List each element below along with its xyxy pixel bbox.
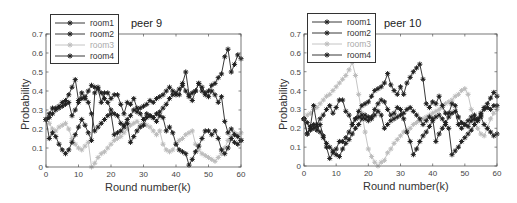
x-tick-label: 10 <box>332 169 341 178</box>
y-tick-label: 0.2 <box>32 125 44 134</box>
x-tick-label: 60 <box>237 170 246 179</box>
y-tick-label: 0.6 <box>290 49 302 58</box>
legend-line-icon <box>312 39 342 49</box>
x-tick-label: 30 <box>396 169 405 178</box>
legend: room1 room2 room3 room4 <box>307 13 376 63</box>
y-tick-label: 0 <box>39 163 44 172</box>
series-room2 <box>301 62 499 137</box>
y-tick-label: 0.5 <box>32 68 44 77</box>
x-tick-label: 20 <box>364 169 373 178</box>
x-axis-label: Round number(k) <box>363 180 449 192</box>
legend-line-icon <box>312 50 342 60</box>
legend-item-room4: room4 <box>312 49 371 60</box>
chart-title: peer 10 <box>384 17 421 29</box>
chart-peer-10: 010203040506000.10.20.30.40.50.60.7 peer… <box>258 0 516 203</box>
y-tick-label: 0.7 <box>32 30 44 39</box>
y-tick-label: 0.5 <box>290 68 302 77</box>
y-tick-label: 0.3 <box>32 106 44 115</box>
x-tick-label: 50 <box>460 169 469 178</box>
y-tick-label: 0.3 <box>290 105 302 114</box>
y-tick-label: 0.4 <box>32 87 44 96</box>
chart-title: peer 9 <box>131 17 162 29</box>
x-tick-label: 50 <box>204 170 213 179</box>
y-axis-label: Probability <box>277 79 289 130</box>
x-tick-label: 10 <box>74 170 83 179</box>
legend: room1 room2 room3 room4 <box>50 14 119 64</box>
legend-line-icon <box>312 28 342 38</box>
y-tick-label: 0.1 <box>290 143 302 152</box>
y-tick-label: 0.2 <box>290 124 302 133</box>
plot-area-peer-9: 010203040506000.10.20.30.40.50.60.7 <box>0 0 258 203</box>
y-tick-label: 0.6 <box>32 49 44 58</box>
legend-item-room1: room1 <box>312 16 371 27</box>
legend-line-icon <box>55 51 85 61</box>
plot-area-peer-10: 010203040506000.10.20.30.40.50.60.7 <box>258 0 517 203</box>
legend-line-icon <box>55 29 85 39</box>
y-tick-label: 0 <box>297 162 302 171</box>
x-tick-label: 40 <box>428 169 437 178</box>
y-tick-label: 0.7 <box>290 30 302 39</box>
legend-line-icon <box>55 40 85 50</box>
legend-item-room3: room3 <box>312 38 371 49</box>
x-tick-label: 20 <box>107 170 116 179</box>
y-tick-label: 0.1 <box>32 144 44 153</box>
series-room4 <box>43 81 243 145</box>
legend-item-room4: room4 <box>55 50 114 61</box>
y-axis-label: Probability <box>19 79 31 130</box>
x-tick-label: 30 <box>139 170 148 179</box>
legend-item-room2: room2 <box>312 27 371 38</box>
chart-peer-9: 010203040506000.10.20.30.40.50.60.7 peer… <box>0 0 258 203</box>
legend-item-room3: room3 <box>55 39 114 50</box>
legend-item-room2: room2 <box>55 28 114 39</box>
legend-item-room1: room1 <box>55 17 114 28</box>
x-tick-label: 60 <box>493 169 502 178</box>
x-tick-label: 0 <box>302 169 307 178</box>
y-tick-label: 0.4 <box>290 87 302 96</box>
legend-line-icon <box>312 17 342 27</box>
x-tick-label: 0 <box>44 170 49 179</box>
x-axis-label: Round number(k) <box>105 181 191 193</box>
legend-line-icon <box>55 18 85 28</box>
x-tick-label: 40 <box>172 170 181 179</box>
